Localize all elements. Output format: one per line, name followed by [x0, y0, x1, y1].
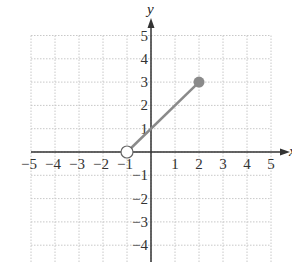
line-segment	[127, 82, 199, 152]
x-tick-label: −4	[45, 156, 61, 172]
axes	[31, 18, 290, 262]
x-axis-label: x	[288, 143, 292, 159]
x-tick-label: 5	[267, 156, 275, 172]
x-tick-label: 2	[195, 156, 203, 172]
x-tick-label: −3	[69, 156, 85, 172]
y-tick-label: −3	[132, 214, 148, 230]
y-tick-label: −1	[132, 167, 148, 183]
open-endpoint-icon	[121, 146, 133, 158]
x-tick-label: 1	[171, 156, 179, 172]
data-series	[121, 77, 205, 158]
x-tick-label: −2	[93, 156, 109, 172]
y-tick-label: 3	[141, 74, 149, 90]
y-tick-label: 2	[141, 97, 149, 113]
y-tick-label: −2	[132, 191, 148, 207]
x-tick-label: −1	[117, 156, 133, 172]
coordinate-plane: −5−4−3−2−11234554321−1−2−3−4 x y	[0, 0, 292, 262]
y-tick-label: 4	[141, 51, 149, 67]
closed-endpoint-icon	[194, 77, 205, 88]
x-tick-label: 3	[219, 156, 227, 172]
y-tick-label: −4	[132, 237, 148, 253]
y-axis-label: y	[145, 1, 154, 17]
y-tick-label: 5	[141, 28, 149, 44]
x-tick-label: 4	[243, 156, 251, 172]
x-tick-label: −5	[21, 156, 37, 172]
tick-labels: −5−4−3−2−11234554321−1−2−3−4	[21, 28, 275, 254]
y-axis-arrow-icon	[148, 18, 155, 28]
